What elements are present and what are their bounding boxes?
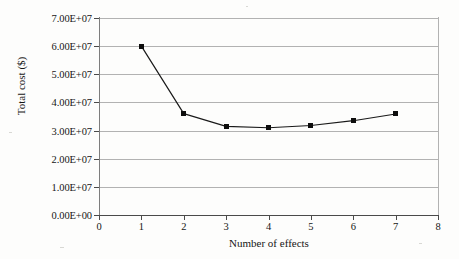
x-tick-mark bbox=[311, 215, 312, 220]
plot-right-border bbox=[438, 17, 439, 216]
y-tick-label: 5.00E+07 bbox=[20, 69, 92, 80]
data-point-marker bbox=[266, 125, 271, 130]
y-tick-mark bbox=[94, 46, 99, 47]
y-tick-label: 6.00E+07 bbox=[20, 41, 92, 52]
scan-speckle bbox=[246, 6, 248, 7]
x-tick-label: 4 bbox=[257, 221, 281, 233]
x-tick-label: 1 bbox=[129, 221, 153, 233]
gridline bbox=[99, 46, 438, 47]
y-tick-label: 1.00E+07 bbox=[20, 182, 92, 193]
gridline bbox=[99, 131, 438, 132]
x-tick-mark bbox=[99, 215, 100, 220]
gridline bbox=[99, 18, 438, 19]
x-tick-label: 8 bbox=[426, 221, 450, 233]
gridline bbox=[99, 74, 438, 75]
data-point-marker bbox=[351, 118, 356, 123]
y-tick-mark bbox=[94, 102, 99, 103]
x-tick-label: 2 bbox=[172, 221, 196, 233]
x-tick-label: 7 bbox=[384, 221, 408, 233]
gridline bbox=[99, 102, 438, 103]
y-tick-mark bbox=[94, 159, 99, 160]
plot-area bbox=[99, 18, 438, 215]
scan-speckle bbox=[419, 243, 422, 244]
y-tick-label: 2.00E+07 bbox=[20, 154, 92, 165]
data-point-marker bbox=[224, 124, 229, 129]
data-point-marker bbox=[393, 111, 398, 116]
chart-figure: 7.00E+07 6.00E+07 5.00E+07 4.00E+07 3.00… bbox=[0, 0, 459, 259]
data-point-marker bbox=[139, 44, 144, 49]
x-tick-mark bbox=[226, 215, 227, 220]
y-tick-mark bbox=[94, 187, 99, 188]
scan-speckle bbox=[9, 132, 12, 133]
x-tick-mark bbox=[184, 215, 185, 220]
y-tick-mark bbox=[94, 74, 99, 75]
y-axis-title-wrapper: Total cost ($) bbox=[14, 27, 28, 145]
x-tick-mark bbox=[269, 215, 270, 220]
x-tick-label: 6 bbox=[341, 221, 365, 233]
x-tick-label: 3 bbox=[214, 221, 238, 233]
y-tick-label: 3.00E+07 bbox=[20, 126, 92, 137]
y-tick-mark bbox=[94, 18, 99, 19]
x-tick-mark bbox=[353, 215, 354, 220]
data-point-marker bbox=[308, 123, 313, 128]
x-tick-mark bbox=[141, 215, 142, 220]
x-axis-title: Number of effects bbox=[99, 237, 439, 250]
y-tick-label: 0.00E+00 bbox=[20, 210, 92, 221]
x-tick-label: 0 bbox=[87, 221, 111, 233]
scan-speckle bbox=[60, 247, 64, 248]
data-point-marker bbox=[181, 111, 186, 116]
y-tick-label: 4.00E+07 bbox=[20, 97, 92, 108]
y-axis-title: Total cost ($) bbox=[14, 27, 28, 145]
y-axis-line bbox=[99, 17, 100, 216]
gridline bbox=[99, 187, 438, 188]
y-tick-label: 7.00E+07 bbox=[20, 13, 92, 24]
x-tick-label: 5 bbox=[299, 221, 323, 233]
y-tick-mark bbox=[94, 131, 99, 132]
gridline bbox=[99, 159, 438, 160]
x-tick-mark bbox=[438, 215, 439, 220]
x-tick-mark bbox=[396, 215, 397, 220]
